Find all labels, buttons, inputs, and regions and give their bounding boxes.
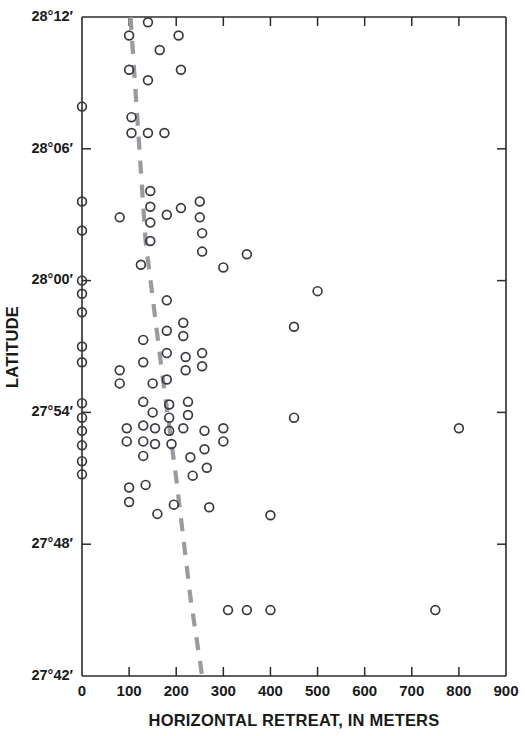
data-point-marker bbox=[188, 471, 197, 480]
data-point-marker bbox=[136, 260, 145, 269]
data-point-marker bbox=[174, 31, 183, 40]
axes bbox=[82, 17, 506, 676]
data-point-marker bbox=[127, 129, 136, 138]
y-tick-label: 28°12′ bbox=[31, 8, 73, 24]
x-axis-tick-labels: 0100200300400500600700800900 bbox=[78, 682, 519, 699]
data-point-marker bbox=[198, 247, 207, 256]
data-point-marker bbox=[165, 413, 174, 422]
x-axis-title: HORIZONTAL RETREAT, IN METERS bbox=[149, 711, 440, 729]
x-tick-label: 900 bbox=[493, 682, 518, 699]
data-point-marker bbox=[202, 463, 211, 472]
x-tick-label: 600 bbox=[352, 682, 377, 699]
data-point-marker bbox=[186, 453, 195, 462]
data-point-marker bbox=[151, 424, 160, 433]
data-point-marker bbox=[198, 349, 207, 358]
data-point-marker bbox=[205, 503, 214, 512]
data-point-marker bbox=[184, 411, 193, 420]
data-point-marker bbox=[146, 187, 155, 196]
data-point-marker bbox=[139, 358, 148, 367]
data-point-marker bbox=[139, 437, 148, 446]
data-point-marker bbox=[144, 129, 153, 138]
y-tick-label: 28°06′ bbox=[31, 140, 73, 156]
data-point-marker bbox=[122, 437, 131, 446]
data-points bbox=[78, 18, 464, 615]
data-point-marker bbox=[224, 606, 233, 615]
data-point-marker bbox=[139, 451, 148, 460]
data-point-marker bbox=[181, 353, 190, 362]
data-point-marker bbox=[184, 397, 193, 406]
data-point-marker bbox=[181, 366, 190, 375]
data-point-marker bbox=[290, 413, 299, 422]
data-point-marker bbox=[266, 606, 275, 615]
data-point-marker bbox=[146, 202, 155, 211]
trend-line-path bbox=[131, 17, 203, 676]
data-point-marker bbox=[139, 421, 148, 430]
data-point-marker bbox=[127, 113, 136, 122]
data-point-marker bbox=[177, 65, 186, 74]
y-axis-title: LATITUDE bbox=[3, 306, 21, 388]
data-point-marker bbox=[219, 263, 228, 272]
x-tick-label: 100 bbox=[117, 682, 142, 699]
data-point-marker bbox=[162, 296, 171, 305]
y-axis-tick-labels: 27°42′27°48′27°54′28°00′28°06′28°12′ bbox=[31, 8, 73, 683]
data-point-marker bbox=[198, 229, 207, 238]
x-tick-label: 700 bbox=[399, 682, 424, 699]
data-point-marker bbox=[141, 480, 150, 489]
x-tick-label: 400 bbox=[258, 682, 283, 699]
y-tick-label: 27°48′ bbox=[31, 535, 73, 551]
data-point-marker bbox=[290, 322, 299, 331]
data-point-marker bbox=[242, 250, 251, 259]
data-point-marker bbox=[122, 424, 131, 433]
data-point-marker bbox=[198, 362, 207, 371]
data-point-marker bbox=[195, 197, 204, 206]
data-point-marker bbox=[313, 287, 322, 296]
x-tick-label: 300 bbox=[211, 682, 236, 699]
data-point-marker bbox=[179, 332, 188, 341]
x-tick-label: 800 bbox=[446, 682, 471, 699]
data-point-marker bbox=[144, 76, 153, 85]
data-point-marker bbox=[148, 408, 157, 417]
y-tick-label: 27°42′ bbox=[31, 667, 73, 683]
data-point-marker bbox=[454, 424, 463, 433]
plot-canvas: 27°42′27°48′27°54′28°00′28°06′28°12′ 010… bbox=[0, 0, 525, 736]
data-point-marker bbox=[195, 213, 204, 222]
data-point-marker bbox=[153, 509, 162, 518]
data-point-marker bbox=[139, 336, 148, 345]
data-point-marker bbox=[151, 440, 160, 449]
data-point-marker bbox=[160, 129, 169, 138]
y-tick-label: 28°00′ bbox=[31, 271, 73, 287]
data-point-marker bbox=[148, 379, 157, 388]
data-point-marker bbox=[242, 606, 251, 615]
data-point-marker bbox=[162, 349, 171, 358]
scatter-plot-figure: 27°42′27°48′27°54′28°00′28°06′28°12′ 010… bbox=[0, 0, 525, 736]
data-point-marker bbox=[146, 218, 155, 227]
data-point-marker bbox=[115, 379, 124, 388]
data-point-marker bbox=[219, 424, 228, 433]
x-tick-label: 500 bbox=[305, 682, 330, 699]
data-point-marker bbox=[177, 204, 186, 213]
data-point-marker bbox=[115, 366, 124, 375]
data-point-marker bbox=[169, 500, 178, 509]
data-point-marker bbox=[266, 511, 275, 520]
data-point-marker bbox=[200, 445, 209, 454]
data-point-marker bbox=[125, 483, 134, 492]
data-point-marker bbox=[125, 498, 134, 507]
axis-ticks bbox=[82, 17, 506, 676]
y-tick-label: 27°54′ bbox=[31, 403, 73, 419]
series-0 bbox=[78, 18, 464, 615]
data-point-marker bbox=[162, 326, 171, 335]
data-point-marker bbox=[431, 606, 440, 615]
data-point-marker bbox=[200, 426, 209, 435]
data-point-marker bbox=[139, 397, 148, 406]
data-point-marker bbox=[219, 437, 228, 446]
x-tick-label: 200 bbox=[164, 682, 189, 699]
trend-line bbox=[131, 17, 203, 676]
x-tick-label: 0 bbox=[78, 682, 86, 699]
data-point-marker bbox=[144, 18, 153, 27]
data-point-marker bbox=[115, 213, 124, 222]
data-point-marker bbox=[125, 31, 134, 40]
data-point-marker bbox=[179, 318, 188, 327]
data-point-marker bbox=[155, 46, 164, 55]
data-point-marker bbox=[179, 424, 188, 433]
data-point-marker bbox=[162, 210, 171, 219]
